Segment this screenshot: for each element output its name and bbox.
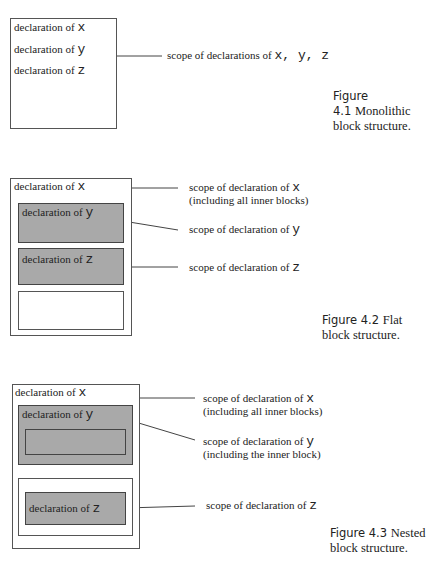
decl-var: y <box>78 42 86 57</box>
decl-var: y <box>86 205 94 220</box>
decl-var: z <box>86 252 94 267</box>
fig1-decl-x: declaration of x <box>14 21 85 34</box>
fig2-decl-y: declaration of y <box>22 206 93 219</box>
caption-number: Figure 4.2 <box>322 313 379 327</box>
fig3-inner-block-of-y <box>25 429 126 455</box>
decl-var: z <box>93 501 101 516</box>
decl-var: y <box>86 407 94 422</box>
scope-note: (including all inner blocks) <box>203 405 322 417</box>
decl-var: x <box>78 20 86 35</box>
fig1-caption: Figure 4.1 Monolithic block structure. <box>333 89 440 134</box>
scope-prefix: scope of declarations of <box>167 49 275 61</box>
scope-vars: x, y, z <box>275 48 330 63</box>
decl-prefix: declaration of <box>14 43 78 55</box>
fig2-scope-x: scope of declaration of x(including all … <box>189 181 308 207</box>
caption-title-line2: block structure. <box>333 119 411 133</box>
fig3-decl-y: declaration of y <box>22 408 93 421</box>
fig1-decl-y: declaration of y <box>14 43 85 56</box>
scope-prefix: scope of declaration of <box>189 181 292 193</box>
fig2-decl-z: declaration of z <box>22 253 93 266</box>
scope-var: x <box>292 180 300 195</box>
scope-prefix: scope of declaration of <box>189 261 292 273</box>
fig1-scope-label: scope of declarations of x, y, z <box>167 49 329 62</box>
caption-title: Flat <box>383 313 402 327</box>
caption-title: Nested <box>391 526 426 540</box>
fig2-scope-z: scope of declaration of z <box>189 261 300 274</box>
scope-prefix: scope of declaration of <box>189 223 292 235</box>
caption-title: Monolithic <box>355 104 411 118</box>
decl-var: z <box>78 63 86 78</box>
caption-title-line2: block structure. <box>330 541 408 555</box>
fig2-decl-x: declaration of x <box>14 180 85 193</box>
fig2-scope-y: scope of declaration of y <box>189 223 300 236</box>
decl-prefix: declaration of <box>29 502 93 514</box>
fig3-caption: Figure 4.3 Nested block structure. <box>330 526 425 556</box>
caption-title-line2: block structure. <box>322 328 400 342</box>
fig3-scope-x: scope of declaration of x(including all … <box>203 392 322 418</box>
fig3-scope-y: scope of declaration of y(including the … <box>203 435 321 461</box>
fig1-decl-z: declaration of z <box>14 64 85 77</box>
fig3-decl-z: declaration of z <box>29 502 100 515</box>
decl-prefix: declaration of <box>14 21 78 33</box>
scope-prefix: scope of declaration of <box>203 392 306 404</box>
decl-prefix: declaration of <box>15 386 79 398</box>
fig3-scope-z: scope of declaration of z <box>206 499 317 512</box>
scope-var: y <box>292 222 300 237</box>
fig2-empty-block <box>18 291 124 330</box>
decl-prefix: declaration of <box>22 253 86 265</box>
scope-prefix: scope of declaration of <box>206 499 309 511</box>
caption-number: Figure 4.3 <box>330 526 387 540</box>
scope-var: x <box>306 391 314 406</box>
fig3-decl-x: declaration of x <box>15 386 86 399</box>
decl-prefix: declaration of <box>22 408 86 420</box>
decl-prefix: declaration of <box>14 180 78 192</box>
fig2-caption: Figure 4.2 Flat block structure. <box>322 313 402 343</box>
decl-prefix: declaration of <box>22 206 86 218</box>
scope-note: (including all inner blocks) <box>189 194 308 206</box>
scope-var: z <box>292 260 300 275</box>
scope-var: z <box>309 498 317 513</box>
scope-prefix: scope of declaration of <box>203 435 306 447</box>
scope-note: (including the inner block) <box>203 448 321 460</box>
decl-var: x <box>79 385 87 400</box>
decl-prefix: declaration of <box>14 64 78 76</box>
scope-var: y <box>306 434 314 449</box>
decl-var: x <box>78 179 86 194</box>
